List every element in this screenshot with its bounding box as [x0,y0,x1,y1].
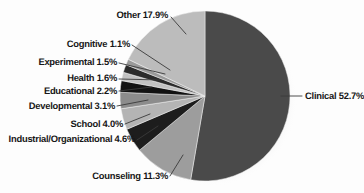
pie-label-educational: Educational 2.2% [0,85,117,96]
pie-label-experimental: Experimental 1.5% [0,56,117,67]
pie-label-clinical: Clinical 52.7% [305,90,364,101]
pie-label-industrial: Industrial/Organizational 4.6% [0,133,135,144]
pie-label-counseling: Counseling 11.3% [0,170,168,181]
pie-slice-group [120,11,290,181]
pie-chart-figure: Other 17.9% Cognitive 1.1% Experimental … [0,0,364,193]
pie-label-developmental: Developmental 3.1% [0,100,115,111]
pie-label-health: Health 1.6% [0,72,117,83]
pie-label-other: Other 17.9% [0,9,168,20]
pie-label-cognitive: Cognitive 1.1% [0,38,130,49]
pie-label-school: School 4.0% [0,118,123,129]
